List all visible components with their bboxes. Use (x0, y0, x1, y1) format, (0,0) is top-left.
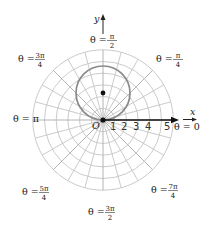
angle-label-denominator: 4 (38, 61, 43, 69)
angle-label-pi-over-2: θ = π2 (90, 33, 117, 50)
pole-dot (100, 117, 105, 122)
angle-label-prefix: θ = (156, 53, 173, 64)
angle-label-prefix: θ = (151, 184, 168, 195)
angle-label-numerator: 7π (168, 183, 177, 191)
angle-label-pi-over-4: θ = π4 (156, 52, 183, 69)
angle-label-numerator: 3π (105, 205, 114, 213)
tick-label: 3 (133, 121, 139, 132)
y-axis-label: y (93, 13, 100, 24)
angle-label-prefix: θ = (88, 206, 105, 217)
angle-label-numerator: 3π (35, 52, 44, 60)
angle-label-prefix: θ = (22, 186, 39, 197)
polar-diagram: y x O 1 2 3 4 5 θ = 0 θ = π θ = π2 θ = π… (0, 0, 210, 232)
angle-label-3pi-over-4: θ = 3π4 (18, 52, 45, 69)
origin-label: O (92, 120, 100, 131)
x-axis-label: x (190, 106, 196, 117)
angle-label-pi: θ = π (13, 113, 39, 124)
angle-label-numerator: π (176, 52, 181, 60)
angle-label-5pi-over-4: θ = 5π4 (22, 185, 49, 202)
angle-label-denominator: 2 (108, 214, 112, 222)
angle-label-prefix: θ = (90, 34, 107, 45)
angle-label-denominator: 4 (176, 61, 181, 69)
angle-label-denominator: 4 (42, 194, 47, 202)
angle-label-numerator: π (110, 33, 115, 41)
circle-center-dot (101, 91, 106, 96)
tick-label: 2 (121, 121, 127, 132)
angle-label-denominator: 2 (110, 42, 114, 50)
svg-text:θ = 0: θ = 0 (174, 121, 200, 132)
angle-label-0: θ = 0 (174, 121, 200, 132)
angle-label-denominator: 4 (171, 192, 176, 200)
angle-label-7pi-over-4: θ = 7π4 (151, 183, 178, 200)
svg-text:θ = π: θ = π (13, 113, 39, 124)
y-axis-arrowhead (101, 14, 106, 20)
tick-label: 4 (145, 121, 151, 132)
polar-diagram-svg: y x O 1 2 3 4 5 θ = 0 θ = π θ = π2 θ = π… (0, 0, 210, 232)
angle-label-prefix: θ = (18, 53, 35, 64)
tick-label: 5 (164, 121, 170, 132)
tick-label: 1 (110, 121, 116, 132)
angle-label-numerator: 5π (39, 185, 48, 193)
angle-label-3pi-over-2: θ = 3π2 (88, 205, 115, 222)
